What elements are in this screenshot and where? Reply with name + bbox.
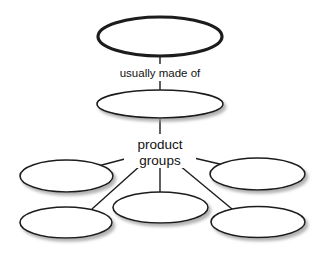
diagram-canvas: usually made of product groups — [0, 0, 319, 255]
usually-made-of-label: usually made of — [120, 67, 201, 79]
leaf-node-mid-right[interactable] — [210, 158, 305, 190]
node-layer — [20, 17, 305, 238]
leaf-node-bottom-left[interactable] — [20, 207, 112, 238]
concept-map-diagram: usually made of product groups — [0, 0, 319, 255]
root-node[interactable] — [98, 17, 222, 56]
product-groups-label-line1: product — [137, 137, 182, 152]
leaf-node-mid-left[interactable] — [20, 160, 113, 192]
leaf-node-bottom-center[interactable] — [113, 192, 208, 223]
leaf-node-bottom-right[interactable] — [211, 207, 305, 238]
level2-node[interactable] — [97, 90, 223, 118]
product-groups-label-line2: groups — [139, 153, 181, 168]
